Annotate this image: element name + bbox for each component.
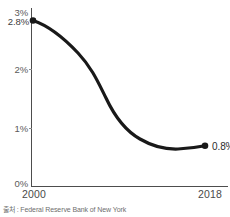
- source-caption: 출처 : Federal Reserve Bank of New York: [3, 205, 126, 214]
- end-value-annotation: 0.8%: [212, 141, 230, 152]
- y-tick-label-1pct: 1%: [14, 123, 28, 134]
- x-tick-label-2018: 2018: [198, 188, 222, 200]
- line-chart-plot: 3% 2.8% 2% 1% 0% 0.8% 2000 2018: [0, 0, 230, 200]
- start-point-dot: [30, 17, 37, 24]
- chart-figure: 3% 2.8% 2% 1% 0% 0.8% 2000 2018 출처 : Fed…: [0, 0, 230, 217]
- y-value-label-start: 2.8%: [8, 16, 30, 27]
- y-tick-label-2pct: 2%: [14, 64, 28, 75]
- y-tick-label-0pct: 0%: [14, 178, 28, 189]
- end-point-dot: [202, 143, 209, 150]
- x-tick-label-2000: 2000: [22, 188, 46, 200]
- rate-trend-line: [33, 21, 205, 150]
